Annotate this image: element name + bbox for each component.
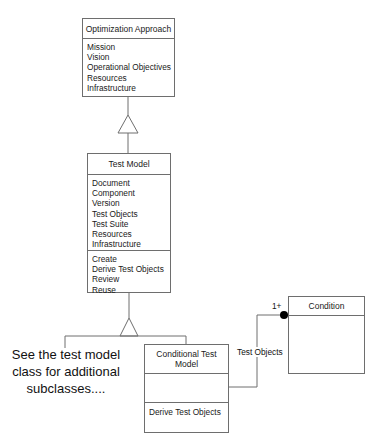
class-attributes (289, 316, 364, 322)
operation: Derive Test Objects (92, 264, 166, 274)
class-name: Optimization Approach (83, 19, 174, 39)
class-optimization-approach[interactable]: Optimization Approach Mission Vision Ope… (82, 18, 175, 97)
attribute: Test Suite (92, 219, 166, 229)
operation: Review (92, 274, 166, 284)
association-end-dot-icon (280, 311, 288, 319)
class-name: Test Model (88, 154, 170, 175)
attribute: Component (92, 188, 166, 198)
attribute: Infrastructure (87, 83, 170, 93)
class-operations: Derive Test Objects (145, 402, 228, 420)
association-multiplicity: 1+ (272, 301, 281, 311)
attribute: Mission (87, 42, 170, 52)
attribute: Resources (87, 73, 170, 83)
generalization-arrow-icon (120, 318, 138, 336)
attribute: Resources (92, 229, 166, 239)
association-label: Test Objects (237, 347, 283, 357)
class-name: Conditional Test Model (145, 345, 228, 374)
class-operations: Create Derive Test Objects Review Reuse (88, 250, 170, 298)
operation: Derive Test Objects (149, 407, 224, 417)
class-test-model[interactable]: Test Model Document Component Version Te… (87, 153, 171, 293)
class-condition[interactable]: Condition (288, 296, 365, 374)
attribute: Infrastructure (92, 239, 166, 249)
attribute: Version (92, 198, 166, 208)
attribute: Test Objects (92, 209, 166, 219)
operation: Create (92, 254, 166, 264)
operation: Reuse (92, 285, 166, 295)
generalization-arrow-icon (118, 115, 138, 133)
class-conditional-test-model[interactable]: Conditional Test Model Derive Test Objec… (144, 344, 229, 433)
class-attributes: Mission Vision Operational Objectives Re… (83, 39, 174, 96)
attribute: Vision (87, 52, 170, 62)
subclass-note: See the test model class for additional … (10, 346, 122, 397)
class-attributes (145, 374, 228, 402)
attribute: Document (92, 178, 166, 188)
attribute: Operational Objectives (87, 62, 170, 72)
class-name: Condition (289, 297, 364, 316)
class-attributes: Document Component Version Test Objects … (88, 175, 170, 250)
